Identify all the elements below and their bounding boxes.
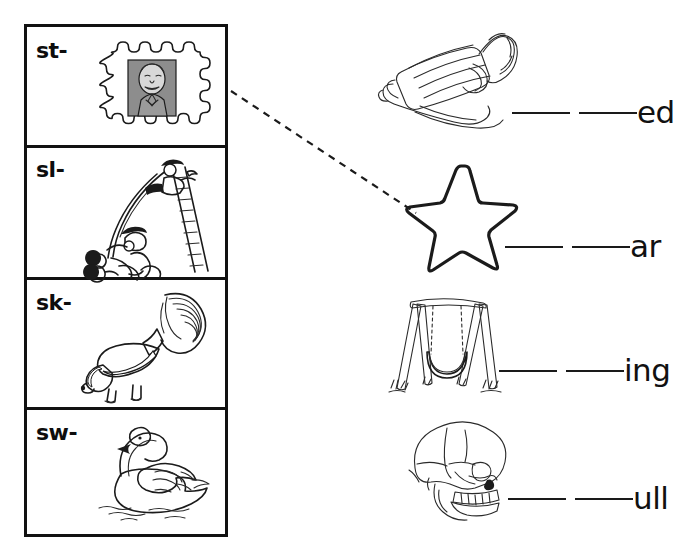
blend-label-st: st- <box>36 40 67 62</box>
blank-line-first[interactable] <box>508 497 566 500</box>
worksheet-page: st- <box>0 0 698 548</box>
swing-icon <box>383 288 523 398</box>
blank-line-second[interactable] <box>566 369 624 372</box>
star-icon <box>403 162 521 267</box>
blend-row-sk[interactable]: sk- <box>27 280 225 410</box>
word-ending-ull: ull <box>633 486 668 510</box>
playground-slide-icon <box>69 154 221 280</box>
blank-group-star[interactable]: ar <box>505 224 661 248</box>
blend-row-sw[interactable]: sw- <box>27 410 225 534</box>
blank-line-first[interactable] <box>505 245 563 248</box>
blank-line-second[interactable] <box>579 111 637 114</box>
answer-row-swing: ing <box>375 288 695 400</box>
answer-row-star: ar <box>375 162 695 272</box>
blank-line-second[interactable] <box>575 497 633 500</box>
word-ending-ing: ing <box>624 358 670 382</box>
answer-row-sled: ed <box>375 18 695 130</box>
blank-group-swing[interactable]: ing <box>499 348 670 372</box>
skunk-icon <box>79 285 219 407</box>
blank-line-first[interactable] <box>512 111 570 114</box>
blend-choices-box: st- <box>24 24 228 537</box>
blend-label-sl: sl- <box>36 159 64 181</box>
blend-row-sl[interactable]: sl- <box>27 148 225 280</box>
word-ending-ed: ed <box>637 100 675 124</box>
blank-line-second[interactable] <box>572 245 630 248</box>
sled-icon <box>375 18 525 133</box>
blank-line-first[interactable] <box>499 369 557 372</box>
blend-row-st[interactable]: st- <box>27 27 225 148</box>
word-ending-ar: ar <box>630 234 661 258</box>
skull-icon <box>395 418 525 526</box>
swan-icon <box>69 418 217 528</box>
answer-row-skull: ull <box>375 418 695 530</box>
blend-label-sk: sk- <box>36 292 71 314</box>
blank-group-skull[interactable]: ull <box>508 476 668 500</box>
stamp-icon <box>100 34 208 142</box>
blank-group-sled[interactable]: ed <box>512 90 675 114</box>
